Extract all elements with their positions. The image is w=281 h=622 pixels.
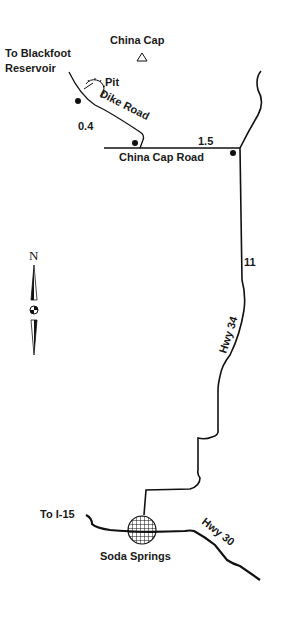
map: China Cap To Blackfoot Reservoir Pit Dik… [0,0,281,622]
north-road [240,71,262,148]
china-cap-road-distance: 1.5 [198,135,213,147]
waypoint-marker [230,150,236,156]
waypoint-marker [132,140,138,146]
peak-icon [137,53,147,61]
blackfoot-label-1: To Blackfoot [5,47,71,59]
china-cap-label: China Cap [110,34,165,46]
hwy34-distance: 11 [244,256,256,268]
blackfoot-label-2: Reservoir [5,62,56,74]
town-icon [128,516,156,544]
dike-distance: 0.4 [78,120,94,132]
to-i15-label: To I-15 [40,508,75,520]
china-cap-road-label: China Cap Road [119,151,204,163]
waypoint-marker [75,98,81,104]
hwy-30 [86,515,260,580]
soda-springs-label: Soda Springs [100,550,171,562]
dike-road-label: Dike Road [98,87,151,122]
compass-icon [30,265,38,355]
pit-label: Pit [105,76,119,88]
hwy34-label: Hwy 34 [216,314,239,355]
north-label: N [29,248,39,263]
hwy30-label: Hwy 30 [200,515,237,548]
